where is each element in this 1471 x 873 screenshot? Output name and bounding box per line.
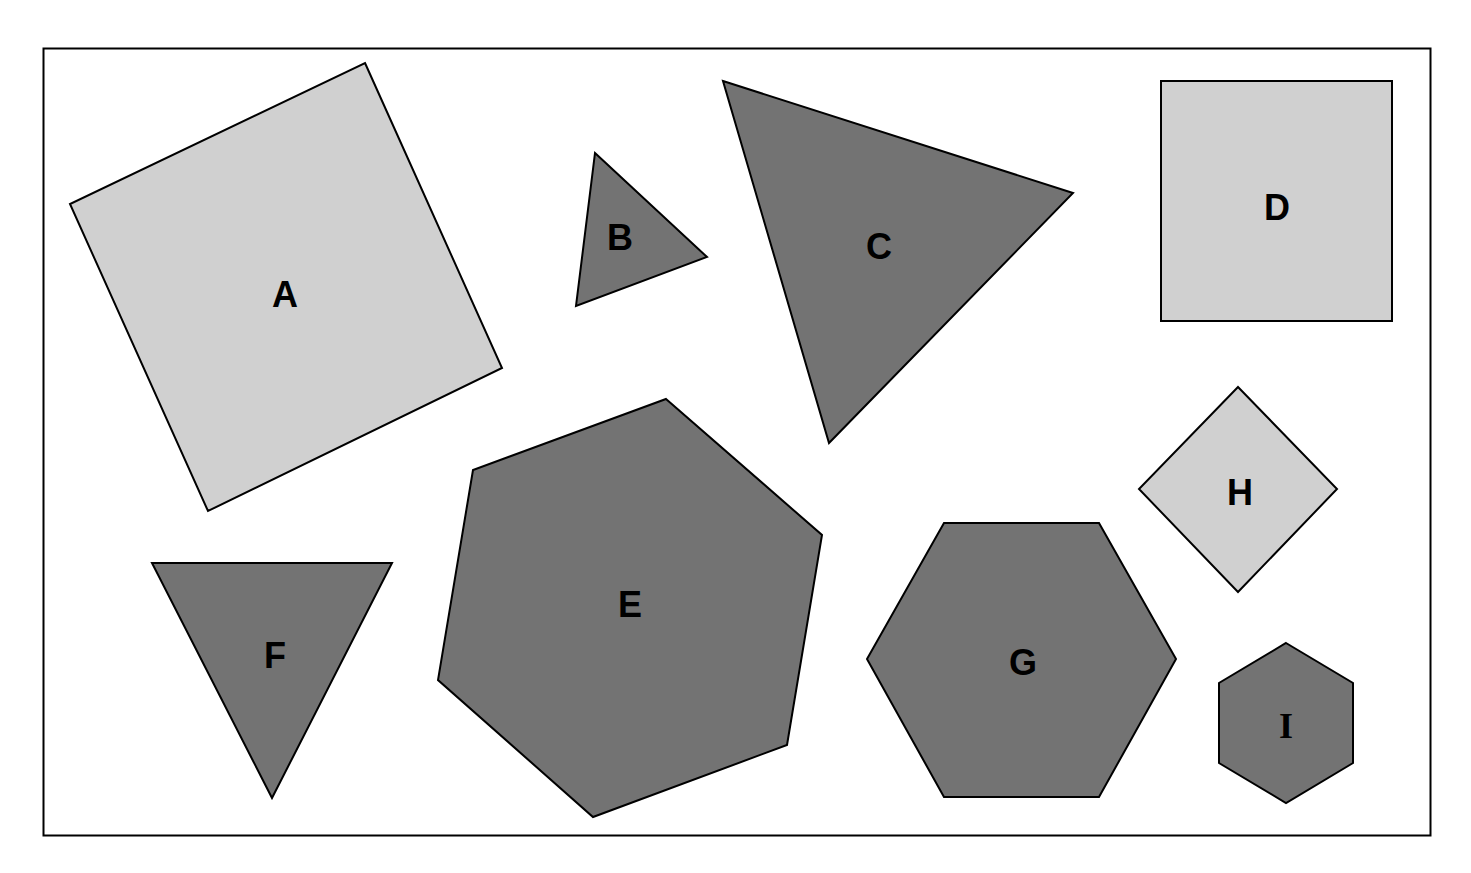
shape-g-label: G — [1009, 642, 1037, 683]
shape-f-label: F — [264, 635, 286, 676]
shapes-diagram: A B C D E F G H I — [0, 0, 1471, 873]
shape-e-label: E — [618, 584, 642, 625]
shape-d: D — [1161, 81, 1392, 321]
shape-a-label: A — [272, 274, 298, 315]
shape-i-label: I — [1279, 706, 1293, 746]
shape-d-label: D — [1264, 187, 1290, 228]
shape-h-label: H — [1227, 472, 1253, 513]
shape-b-label: B — [607, 217, 633, 258]
shape-c-label: C — [866, 226, 892, 267]
